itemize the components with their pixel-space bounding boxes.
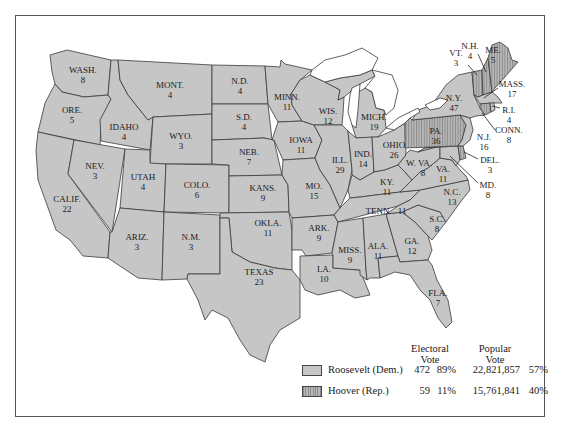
popular-pct: 57%: [522, 364, 548, 375]
popular-pct: 40%: [522, 385, 548, 396]
electoral-vote-header: Electoral Vote: [400, 343, 460, 365]
electoral-count: 59: [404, 385, 430, 396]
state-ark: [292, 215, 338, 256]
popular-count: 15,761,841: [456, 385, 520, 396]
state-kans: [229, 175, 289, 213]
hoover-swatch: [302, 386, 322, 397]
svg-text:CONN.8: CONN.8: [495, 125, 523, 145]
electoral-pct: 89%: [430, 364, 456, 375]
svg-text:MASS.17: MASS.17: [499, 79, 526, 99]
svg-text:DEL.3: DEL.3: [480, 155, 500, 175]
electoral-count: 472: [404, 364, 430, 375]
svg-text:VT.3: VT.3: [449, 48, 463, 68]
leader-conn: [482, 113, 495, 130]
svg-text:R.I.4: R.I.4: [502, 105, 516, 125]
svg-text:TENN.11: TENN.11: [366, 206, 407, 216]
legend-row-roosevelt: Roosevelt (Dem.) 472 89% 22,821,857 57%: [300, 365, 564, 379]
legend-row-hoover: Hoover (Rep.) 59 11% 15,761,841 40%: [300, 386, 564, 400]
roosevelt-swatch: [302, 365, 322, 376]
svg-text:N.J.16: N.J.16: [477, 132, 492, 152]
candidate-name: Hoover (Rep.): [328, 385, 389, 396]
state-vt: [472, 70, 483, 97]
electoral-pct: 11%: [430, 385, 456, 396]
state-ri: [490, 103, 495, 112]
popular-vote-header: Popular Vote: [460, 343, 530, 365]
svg-text:MD.8: MD.8: [480, 180, 497, 200]
svg-text:N.H.4: N.H.4: [461, 41, 479, 61]
popular-count: 22,821,857: [456, 364, 520, 375]
candidate-name: Roosevelt (Dem.): [328, 364, 403, 375]
